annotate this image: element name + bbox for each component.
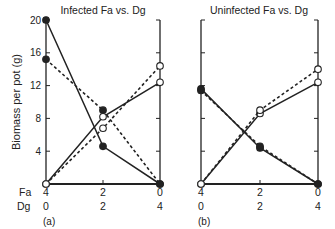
data-point-open-marker xyxy=(43,181,50,188)
data-point-filled-marker xyxy=(257,143,264,150)
panel-a: 48121620402204Infected Fa vs. Dg(a) xyxy=(30,4,163,227)
data-point-open-marker xyxy=(315,79,322,86)
series-line-filled-solid xyxy=(201,89,318,184)
y-tick-label: 20 xyxy=(30,15,42,26)
x-tick-label-fa: 2 xyxy=(100,186,106,198)
y-tick-label: 4 xyxy=(35,146,41,157)
x-tick-label-dg: 2 xyxy=(257,200,263,212)
panel-b: 402204Uninfected Fa vs. Dg(b) xyxy=(198,4,322,227)
data-point-filled-marker xyxy=(43,17,50,24)
data-point-open-marker xyxy=(198,181,205,188)
data-point-filled-marker xyxy=(100,143,107,150)
series-line-open-solid xyxy=(201,82,318,184)
x-tick-label-dg: 0 xyxy=(198,200,204,212)
data-point-filled-marker xyxy=(315,181,322,188)
series-line-open-solid xyxy=(46,82,160,184)
panel-label: (a) xyxy=(43,216,55,227)
y-tick-label: 8 xyxy=(35,113,41,124)
y-tick-label: 12 xyxy=(30,80,42,91)
x-tick-label-dg: 0 xyxy=(43,200,49,212)
static-labels: Biomass per pot (g) Fa Dg xyxy=(10,54,31,212)
data-point-filled-marker xyxy=(157,181,164,188)
row-label-fa: Fa xyxy=(19,186,31,198)
x-tick-label-dg: 2 xyxy=(100,200,106,212)
data-point-open-marker xyxy=(257,107,264,114)
x-tick-label-dg: 4 xyxy=(315,200,321,212)
data-point-filled-marker xyxy=(100,107,107,114)
data-point-open-marker xyxy=(315,66,322,73)
series-line-open-dashed xyxy=(201,69,318,184)
y-tick-label: 16 xyxy=(30,47,42,58)
panel-title: Uninfected Fa vs. Dg xyxy=(210,4,308,16)
series-line-filled-solid xyxy=(46,20,160,184)
x-tick-label-fa: 2 xyxy=(257,186,263,198)
data-point-filled-marker xyxy=(43,56,50,63)
panel-label: (b) xyxy=(198,216,210,227)
data-point-open-marker xyxy=(157,79,164,86)
data-point-filled-marker xyxy=(198,87,205,94)
series-line-filled-dashed xyxy=(201,91,318,184)
data-point-open-marker xyxy=(100,113,107,120)
x-tick-label-dg: 4 xyxy=(157,200,163,212)
row-label-dg: Dg xyxy=(17,200,31,212)
data-point-open-marker xyxy=(157,63,164,70)
data-point-open-marker xyxy=(100,125,107,132)
panel-title: Infected Fa vs. Dg xyxy=(60,4,145,16)
figure: Biomass per pot (g) Fa Dg 48121620402204… xyxy=(0,0,335,229)
y-axis-label: Biomass per pot (g) xyxy=(10,54,22,150)
series-line-filled-dashed xyxy=(46,59,160,184)
